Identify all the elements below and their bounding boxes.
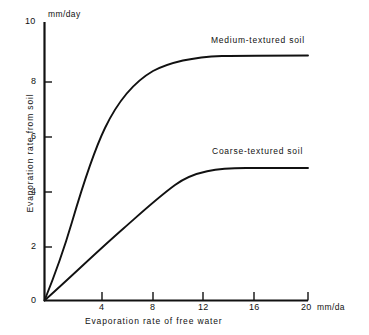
y-axis-title: Evaporation rate from soil	[25, 63, 35, 243]
y-axis-ticks	[45, 82, 53, 247]
x-axis-unit-label: mm/da	[317, 303, 345, 312]
x-tick-label-8: 8	[150, 303, 155, 312]
x-axis-title: Evaporation rate of free water	[85, 317, 222, 326]
y-tick-label-10: 10	[25, 17, 36, 26]
evaporation-chart-figure: mm/day 10 8 6 4 2 0 4 8 12 16 20 mm/da E…	[0, 0, 369, 335]
axis-lines	[45, 22, 309, 301]
plot-area	[0, 0, 369, 335]
x-tick-label-16: 16	[249, 303, 260, 312]
x-tick-label-20: 20	[301, 303, 312, 312]
series-label-coarse: Coarse-textured soil	[212, 147, 303, 156]
x-axis-ticks	[102, 292, 308, 301]
series-label-medium: Medium-textured soil	[211, 36, 305, 45]
y-tick-label-0: 0	[31, 296, 36, 305]
x-tick-label-12: 12	[198, 303, 209, 312]
series-line-coarse	[45, 168, 309, 301]
y-tick-label-2: 2	[31, 242, 36, 251]
x-tick-label-4: 4	[99, 303, 104, 312]
y-axis-unit-label: mm/day	[48, 10, 81, 19]
